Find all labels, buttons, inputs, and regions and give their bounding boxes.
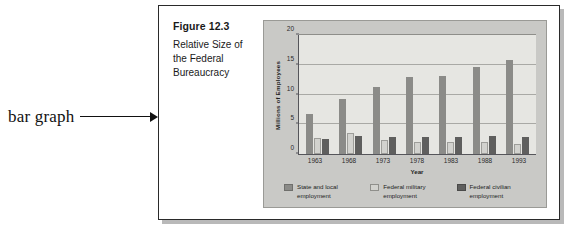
y-axis-title-text: Millions of Employees (275, 60, 282, 129)
bar (355, 136, 362, 154)
bar (447, 142, 454, 154)
legend-label: Federal civilian employment (470, 183, 535, 201)
bar-series-container (299, 35, 536, 154)
bar-group (339, 35, 362, 154)
bar-group (439, 35, 462, 154)
figure-caption-subtitle: Relative Size of the Federal Bureaucracy (173, 38, 257, 81)
annotation-label: bar graph (8, 107, 74, 127)
bar (514, 144, 521, 154)
bar (481, 142, 488, 154)
y-axis-tick-label: 5 (290, 114, 294, 121)
bar (339, 99, 346, 154)
plot-area: 05101520 (298, 35, 536, 155)
bar (373, 87, 380, 154)
figure-box: Figure 12.3 Relative Size of the Federal… (158, 5, 560, 220)
y-axis-tick-label: 0 (290, 144, 294, 151)
legend-label: State and local employment (297, 183, 362, 201)
figure-caption-title: Figure 12.3 (173, 20, 257, 32)
bar-group (406, 35, 429, 154)
y-axis-tick-label: 15 (287, 54, 294, 61)
bar (522, 137, 529, 154)
annotation-callout: bar graph (8, 104, 158, 130)
legend-swatch (457, 184, 466, 191)
y-axis-title: Millions of Employees (272, 35, 284, 155)
chart-legend: State and local employmentFederal milita… (284, 183, 534, 201)
bar (314, 138, 321, 154)
bar (506, 60, 513, 154)
legend-swatch (284, 184, 293, 191)
plot-wrapper: 05101520 (298, 35, 536, 155)
bar (381, 140, 388, 154)
bar (414, 142, 421, 154)
y-axis-tick-label: 20 (287, 25, 294, 32)
legend-item: Federal military employment (370, 183, 448, 201)
bar (322, 139, 329, 154)
legend-swatch (370, 184, 379, 191)
bar-group (506, 35, 529, 154)
bar (422, 137, 429, 154)
legend-item: Federal civilian employment (457, 183, 535, 201)
bar-group (473, 35, 496, 154)
bar (347, 133, 354, 154)
bar-group (306, 35, 329, 154)
bar (439, 76, 446, 154)
arrow-shaft (80, 116, 152, 117)
bar (455, 137, 462, 154)
legend-label: Federal military employment (383, 183, 448, 201)
bar (406, 77, 413, 154)
chart-panel: Millions of Employees 05101520 196319681… (263, 20, 547, 208)
y-axis-tick-label: 10 (287, 84, 294, 91)
arrow-head (150, 112, 158, 122)
arrow-right-icon (80, 111, 158, 123)
bar-group (373, 35, 396, 154)
legend-item: State and local employment (284, 183, 362, 201)
bar (306, 114, 313, 154)
bar (473, 67, 480, 154)
x-axis-title: Year (298, 168, 536, 175)
figure-caption: Figure 12.3 Relative Size of the Federal… (173, 20, 257, 81)
bar (489, 136, 496, 154)
bar (389, 137, 396, 154)
